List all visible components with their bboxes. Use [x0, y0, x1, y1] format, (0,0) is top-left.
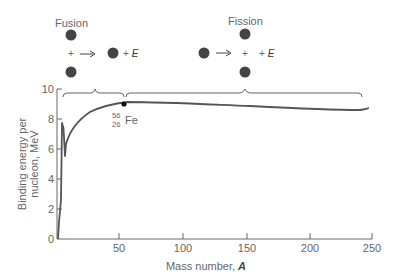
svg-text:nucleon, MeV: nucleon, MeV	[28, 130, 40, 198]
fusion-diagram: Fusion + + E	[55, 17, 139, 78]
x-axis-title: Mass number, A	[166, 260, 246, 272]
x-tick-label: 100	[174, 242, 192, 254]
y-tick-label: 10	[42, 83, 54, 95]
x-tick-label: 50	[113, 242, 125, 254]
binding-energy-curve	[58, 102, 369, 239]
fusion-energy: + E	[123, 48, 139, 59]
y-tick-labels: 0 2 4 6 8 10	[42, 83, 54, 245]
fe-symbol: Fe	[125, 114, 138, 126]
fusion-plus: +	[68, 48, 74, 59]
fission-diagram: Fission + + E	[199, 15, 275, 78]
nucleus-icon	[66, 30, 77, 41]
fusion-label: Fusion	[55, 17, 88, 29]
fission-label: Fission	[228, 15, 263, 27]
nucleus-icon	[66, 67, 77, 78]
y-axis-title: Binding energy per nucleon, MeV	[16, 117, 40, 210]
fission-plus: +	[242, 48, 248, 59]
nucleus-icon	[240, 29, 251, 40]
axes	[57, 89, 372, 239]
x-tick-label: 150	[238, 242, 256, 254]
nucleus-icon	[108, 48, 119, 59]
nucleus-icon	[199, 48, 210, 59]
x-tick-labels: 50 100 150 200 250	[113, 242, 381, 254]
fission-energy: + E	[259, 48, 275, 59]
fe-atomic-number: 26	[112, 120, 120, 129]
y-tick-label: 8	[48, 113, 54, 125]
fe-marker	[121, 101, 126, 106]
region-braces	[63, 89, 362, 97]
y-tick-label: 6	[48, 143, 54, 155]
y-tick-label: 0	[48, 233, 54, 245]
x-tick-label: 200	[301, 242, 319, 254]
fission-brace	[126, 89, 362, 97]
fusion-brace	[63, 89, 124, 97]
nucleus-icon	[240, 67, 251, 78]
y-tick-label: 4	[48, 173, 54, 185]
fe-mass-number: 56	[112, 111, 120, 120]
y-tick-label: 2	[48, 203, 54, 215]
x-tick-label: 250	[363, 242, 381, 254]
svg-text:Binding energy per: Binding energy per	[16, 117, 28, 210]
binding-energy-chart: Fusion + + E Fission + + E	[0, 0, 398, 278]
